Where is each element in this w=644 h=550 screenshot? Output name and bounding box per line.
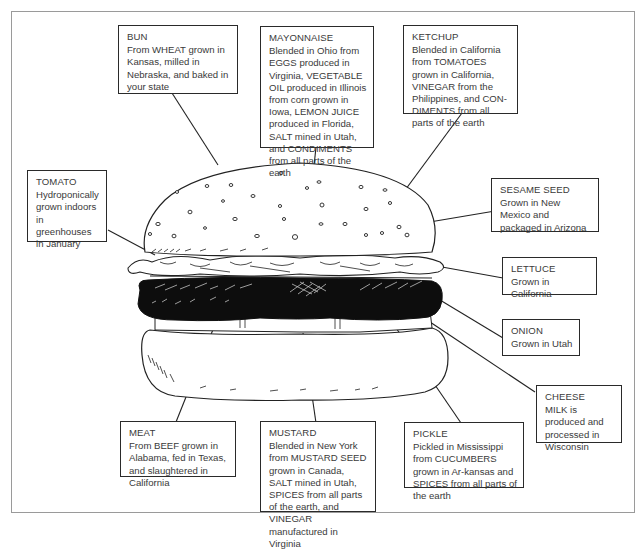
label-text: Grown in Utah	[511, 338, 573, 350]
label-title: CHEESE	[545, 391, 615, 403]
label-text: Grown in California	[511, 276, 590, 300]
label-title: TOMATO	[36, 176, 100, 188]
label-text: From WHEAT grown in Kansas, milled in Ne…	[127, 44, 231, 93]
label-lettuce: LETTUCE Grown in California	[502, 257, 597, 295]
label-cheese: CHEESE MILK is produced and processed in…	[536, 385, 622, 443]
label-title: KETCHUP	[412, 31, 511, 43]
label-mayonnaise: MAYONNAISE Blended in Ohio from EGGS pro…	[260, 26, 374, 148]
label-mustard: MUSTARD Blended in New York from MUSTARD…	[260, 421, 376, 512]
label-ketchup: KETCHUP Blended in California from TOMAT…	[403, 25, 518, 114]
label-title: ONION	[511, 325, 573, 337]
label-text: MILK is produced and processed in Wiscon…	[545, 404, 615, 453]
label-title: SESAME SEED	[500, 184, 592, 196]
label-text: From BEEF grown in Alabama, fed in Texas…	[129, 440, 229, 489]
label-text: Blended in Ohio from EGGS produced in Vi…	[269, 45, 367, 179]
bottom-bun	[142, 328, 448, 401]
label-title: BUN	[127, 31, 231, 43]
label-text: Blended in New York from MUSTARD SEED gr…	[269, 440, 369, 550]
label-title: PICKLE	[413, 428, 517, 440]
label-title: MEAT	[129, 427, 229, 439]
label-pickle: PICKLE Pickled in Mississippi from CUCUM…	[404, 422, 524, 488]
label-sesame-seed: SESAME SEED Grown in New Mexico and pack…	[491, 178, 599, 232]
label-text: Pickled in Mississippi from CUCUMBERS gr…	[413, 441, 517, 502]
label-title: MAYONNAISE	[269, 32, 367, 44]
label-onion: ONION Grown in Utah	[502, 319, 580, 356]
meat-patty	[138, 277, 442, 320]
label-bun: BUN From WHEAT grown in Kansas, milled i…	[118, 25, 238, 94]
label-title: MUSTARD	[269, 427, 369, 439]
label-text: Grown in New Mexico and packaged in Ariz…	[500, 197, 592, 234]
label-text: Hydroponically grown indoors in greenhou…	[36, 189, 100, 250]
label-text: Blended in California from TOMATOES grow…	[412, 44, 511, 129]
label-tomato: TOMATO Hydroponically grown indoors in g…	[27, 170, 107, 242]
label-title: LETTUCE	[511, 263, 590, 275]
label-meat: MEAT From BEEF grown in Alabama, fed in …	[120, 421, 236, 477]
